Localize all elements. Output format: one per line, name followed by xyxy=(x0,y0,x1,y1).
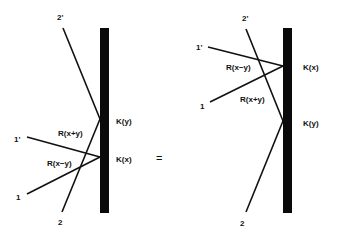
endpoint-label: 1' xyxy=(14,135,20,144)
boundary-wall xyxy=(100,28,109,213)
k-matrix-label: K(y) xyxy=(116,117,132,126)
endpoint-label: 2 xyxy=(240,219,245,228)
r-matrix-label: R(x−y) xyxy=(47,159,72,168)
diagram-canvas: K(y)K(x)2'21'1R(x+y)R(x−y)K(x)K(y)2'21'1… xyxy=(0,0,337,238)
equals-sign: = xyxy=(156,152,162,164)
endpoint-label: 2' xyxy=(57,13,63,22)
endpoint-label: 1' xyxy=(196,43,202,52)
particle-line-2prime xyxy=(63,28,100,119)
endpoint-label: 2 xyxy=(58,218,63,227)
particle-line-2 xyxy=(246,121,283,212)
endpoint-label: 1 xyxy=(16,193,21,202)
endpoint-label: 1 xyxy=(200,102,205,111)
r-matrix-label: R(x−y) xyxy=(226,63,251,72)
r-matrix-label: R(x+y) xyxy=(58,129,83,138)
right-side-diagram: K(x)K(y)2'21'1R(x−y)R(x+y) xyxy=(196,14,319,228)
k-matrix-label: K(x) xyxy=(116,155,132,164)
k-matrix-label: K(x) xyxy=(303,63,319,72)
reflection-equation-diagram: K(y)K(x)2'21'1R(x+y)R(x−y)K(x)K(y)2'21'1… xyxy=(0,0,337,238)
k-matrix-label: K(y) xyxy=(303,119,319,128)
left-side-diagram: K(y)K(x)2'21'1R(x+y)R(x−y) xyxy=(14,13,132,227)
r-matrix-label: R(x+y) xyxy=(240,95,265,104)
boundary-wall xyxy=(283,28,292,213)
endpoint-label: 2' xyxy=(242,14,248,23)
